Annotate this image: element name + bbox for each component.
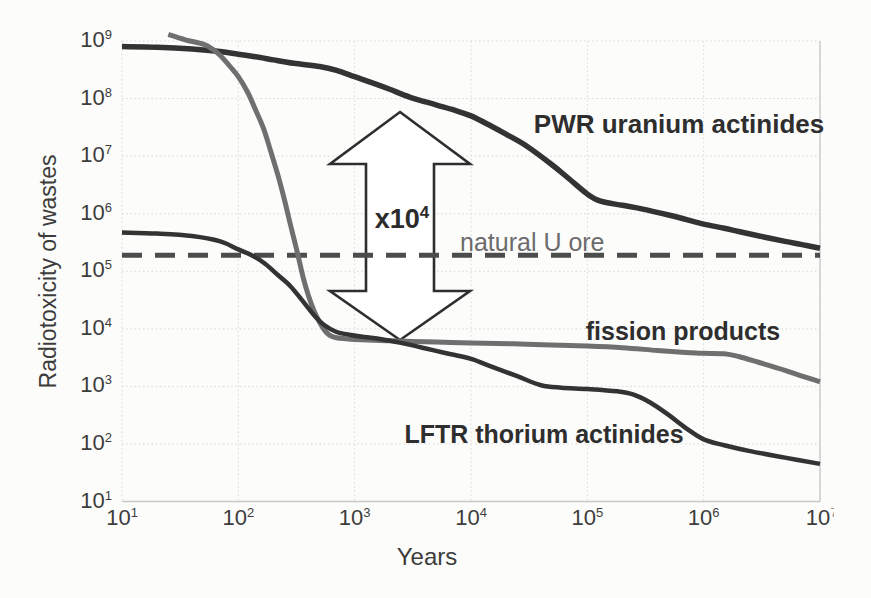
tick-exponent: 1 <box>131 505 138 520</box>
tick-base: 10 <box>80 142 104 167</box>
tick-exponent: 4 <box>105 314 112 329</box>
tick-base: 10 <box>339 505 363 530</box>
tick-exponent: 6 <box>712 505 719 520</box>
x-tick-10e6: 106 <box>674 505 734 531</box>
x-tick-10e7: 107 <box>790 505 850 531</box>
tick-base: 10 <box>80 257 104 282</box>
tick-base: 10 <box>806 505 830 530</box>
pwr-uranium-actinides-label: PWR uranium actinides <box>529 109 829 140</box>
tick-exponent: 7 <box>105 142 112 157</box>
tick-exponent: 8 <box>105 84 112 99</box>
x-tick-10e5: 105 <box>557 505 617 531</box>
ratio-multiplier-exponent: 4 <box>420 203 429 222</box>
natural-u-ore-label: natural U ore <box>460 228 640 257</box>
tick-exponent: 1 <box>105 487 112 502</box>
tick-exponent: 2 <box>105 430 112 445</box>
y-tick-10e7: 107 <box>30 142 112 168</box>
y-tick-10e8: 108 <box>30 85 112 111</box>
y-tick-10e1: 101 <box>30 488 112 514</box>
ratio-multiplier-label: x104 <box>352 204 452 235</box>
y-tick-10e9: 109 <box>30 27 112 53</box>
lftr-thorium-actinides-label: LFTR thorium actinides <box>394 420 694 449</box>
tick-exponent: 6 <box>105 199 112 214</box>
radiotoxicity-figure: Radiotoxicity of wastes Years PWR uraniu… <box>0 0 871 598</box>
fission-products-label: fission products <box>583 317 783 346</box>
y-tick-10e6: 106 <box>30 200 112 226</box>
x-tick-10e2: 102 <box>208 505 268 531</box>
tick-base: 10 <box>80 85 104 110</box>
tick-base: 10 <box>80 430 104 455</box>
x-tick-10e3: 103 <box>325 505 385 531</box>
tick-base: 10 <box>80 488 104 513</box>
tick-exponent: 7 <box>830 505 834 520</box>
tick-exponent: 5 <box>596 505 603 520</box>
tick-base: 10 <box>688 505 712 530</box>
tick-exponent: 3 <box>363 505 370 520</box>
tick-base: 10 <box>455 505 479 530</box>
tick-base: 10 <box>80 27 104 52</box>
x-axis-title: Years <box>377 543 477 571</box>
tick-base: 10 <box>80 315 104 340</box>
tick-base: 10 <box>571 505 595 530</box>
tick-exponent: 3 <box>105 372 112 387</box>
y-tick-10e5: 105 <box>30 257 112 283</box>
ratio-multiplier-base: x10 <box>375 204 420 234</box>
y-tick-10e4: 104 <box>30 315 112 341</box>
tick-base: 10 <box>80 372 104 397</box>
tick-exponent: 4 <box>480 505 487 520</box>
clipped-exponent-wrap: 7 <box>830 505 834 531</box>
tick-exponent: 2 <box>247 505 254 520</box>
tick-exponent: 9 <box>105 27 112 42</box>
tick-exponent: 5 <box>105 257 112 272</box>
tick-base: 10 <box>80 200 104 225</box>
y-tick-10e2: 102 <box>30 430 112 456</box>
x-tick-10e4: 104 <box>441 505 501 531</box>
tick-base: 10 <box>222 505 246 530</box>
y-tick-10e3: 103 <box>30 372 112 398</box>
